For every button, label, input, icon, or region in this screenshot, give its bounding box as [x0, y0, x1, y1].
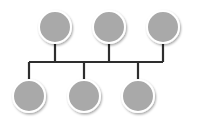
top-node-1: [39, 11, 71, 43]
bottom-node-2: [68, 80, 100, 112]
bottom-node-1: [13, 80, 45, 112]
bottom-node-3: [122, 80, 154, 112]
top-node-2: [93, 11, 125, 43]
network-diagram: [0, 0, 198, 126]
top-node-3: [147, 11, 179, 43]
